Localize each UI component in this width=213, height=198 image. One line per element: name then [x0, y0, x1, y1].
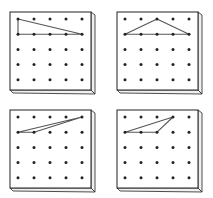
peg: [49, 176, 52, 179]
board-bottom-edge: [117, 90, 202, 94]
peg: [172, 33, 175, 36]
peg: [156, 161, 159, 164]
peg: [124, 18, 127, 21]
peg: [33, 63, 36, 66]
peg: [172, 48, 175, 51]
peg: [140, 176, 143, 179]
peg: [156, 146, 159, 149]
peg: [49, 78, 52, 81]
peg: [188, 78, 191, 81]
board-side: [91, 12, 95, 94]
peg: [17, 63, 20, 66]
peg: [65, 116, 68, 119]
geoboard-bottom-left: [10, 110, 95, 192]
board-face: [10, 12, 91, 90]
peg: [81, 116, 84, 119]
peg: [17, 176, 20, 179]
peg: [188, 63, 191, 66]
peg: [172, 176, 175, 179]
peg: [81, 146, 84, 149]
peg: [140, 33, 143, 36]
peg: [156, 131, 159, 134]
geoboard-top-left: [10, 12, 95, 94]
peg: [188, 146, 191, 149]
peg: [188, 18, 191, 21]
peg: [156, 78, 159, 81]
peg: [124, 63, 127, 66]
peg: [33, 48, 36, 51]
peg: [172, 18, 175, 21]
peg: [49, 116, 52, 119]
peg: [124, 116, 127, 119]
peg: [33, 131, 36, 134]
peg: [140, 146, 143, 149]
peg: [17, 33, 20, 36]
peg: [188, 161, 191, 164]
peg: [124, 48, 127, 51]
board-bottom-edge: [10, 90, 95, 94]
peg: [172, 78, 175, 81]
board-face: [10, 110, 91, 188]
peg: [140, 63, 143, 66]
peg: [81, 63, 84, 66]
peg: [49, 33, 52, 36]
peg: [17, 116, 20, 119]
peg: [65, 18, 68, 21]
peg: [140, 131, 143, 134]
peg: [124, 131, 127, 134]
peg: [33, 161, 36, 164]
peg: [17, 48, 20, 51]
peg: [81, 33, 84, 36]
peg: [140, 48, 143, 51]
peg: [156, 18, 159, 21]
peg: [172, 63, 175, 66]
peg: [33, 33, 36, 36]
peg: [172, 116, 175, 119]
peg: [140, 18, 143, 21]
peg: [49, 161, 52, 164]
peg: [124, 161, 127, 164]
board-side: [198, 12, 202, 94]
peg: [65, 161, 68, 164]
peg: [188, 33, 191, 36]
peg: [156, 116, 159, 119]
peg: [188, 131, 191, 134]
peg: [172, 131, 175, 134]
peg: [33, 176, 36, 179]
board-side: [91, 110, 95, 192]
peg: [17, 78, 20, 81]
geoboard-bottom-right: [117, 110, 202, 192]
geoboard-top-right: [117, 12, 202, 94]
board-side: [198, 110, 202, 192]
peg: [49, 146, 52, 149]
board-bottom-edge: [117, 188, 202, 192]
peg: [124, 33, 127, 36]
geoboard-diagram: [0, 0, 213, 198]
peg: [65, 48, 68, 51]
peg: [188, 116, 191, 119]
peg: [156, 33, 159, 36]
peg: [81, 161, 84, 164]
peg: [49, 48, 52, 51]
peg: [49, 131, 52, 134]
peg: [140, 161, 143, 164]
peg: [81, 176, 84, 179]
peg: [65, 33, 68, 36]
peg: [65, 78, 68, 81]
peg: [81, 131, 84, 134]
peg: [17, 18, 20, 21]
peg: [33, 18, 36, 21]
peg: [17, 131, 20, 134]
peg: [156, 63, 159, 66]
peg: [188, 176, 191, 179]
peg: [172, 161, 175, 164]
peg: [156, 176, 159, 179]
peg: [156, 48, 159, 51]
peg: [81, 48, 84, 51]
peg: [188, 48, 191, 51]
peg: [33, 116, 36, 119]
peg: [65, 176, 68, 179]
peg: [81, 18, 84, 21]
peg: [49, 18, 52, 21]
peg: [124, 78, 127, 81]
